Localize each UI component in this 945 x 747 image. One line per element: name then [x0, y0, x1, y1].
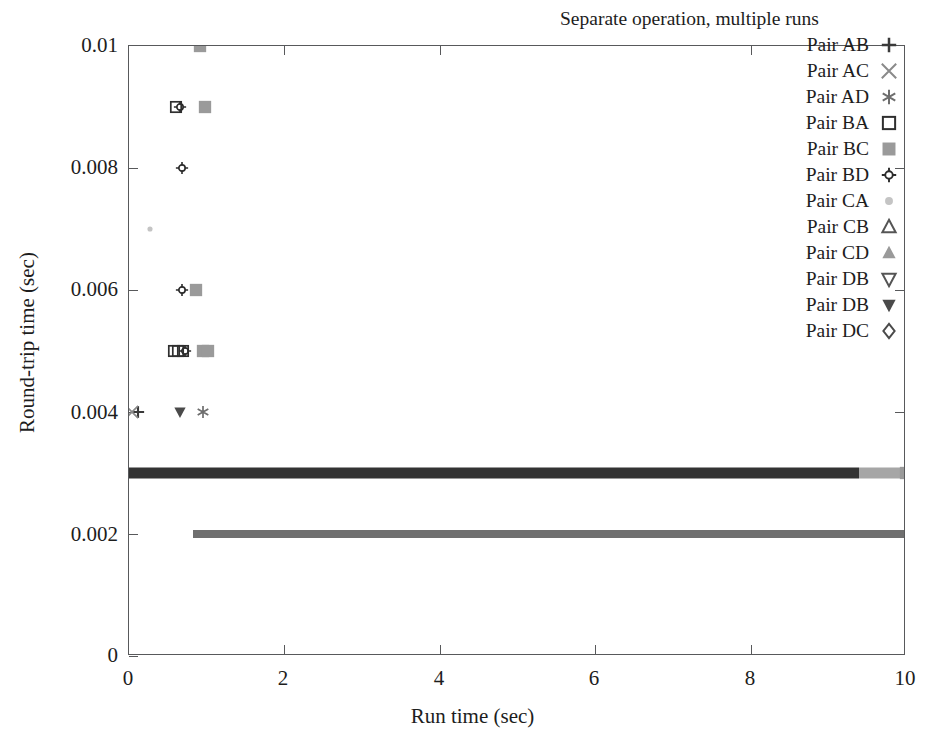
open-diamond-icon	[878, 320, 900, 342]
data-point	[172, 99, 189, 116]
y-tick-label-0008: 0.008	[18, 157, 118, 178]
data-point	[191, 46, 210, 56]
legend-item-label: Pair AD	[806, 86, 869, 108]
y-tick-0002	[129, 534, 138, 535]
legend-item-label: Pair BC	[807, 138, 869, 160]
legend-item[interactable]: Pair CD	[560, 240, 900, 266]
open-triangle-down-icon	[878, 268, 900, 290]
y-tick-label-0006: 0.006	[18, 279, 118, 300]
asterisk-icon	[878, 86, 900, 108]
x-tick-label-4: 4	[399, 668, 479, 689]
data-point	[196, 98, 215, 117]
legend-item-label: Pair DC	[806, 320, 869, 342]
y-tick-0	[129, 656, 138, 657]
x-tick-4	[440, 645, 441, 654]
legend-item[interactable]: Pair BD	[560, 162, 900, 188]
legend-item[interactable]: Pair DC	[560, 318, 900, 344]
y-tick-label-0: 0	[18, 645, 118, 666]
legend-item-label: Pair CB	[807, 216, 869, 238]
legend-item[interactable]: Pair AD	[560, 84, 900, 110]
legend-item-label: Pair BD	[806, 164, 869, 186]
y-tick-0006	[129, 290, 138, 291]
x-axis-title: Run time (sec)	[0, 704, 945, 729]
y-axis-title: Round-trip time (sec)	[15, 113, 40, 573]
legend-item[interactable]: Pair AC	[560, 58, 900, 84]
small-dot-light-icon	[878, 190, 900, 212]
data-band	[859, 468, 904, 479]
legend-item[interactable]: Pair BA	[560, 110, 900, 136]
y-tick-label-0002: 0.002	[18, 524, 118, 545]
legend-item-label: Pair CD	[806, 242, 869, 264]
x-tick-8	[751, 645, 752, 654]
data-point	[193, 342, 212, 361]
data-point	[173, 282, 190, 299]
data-point	[199, 342, 218, 361]
legend-item[interactable]: Pair CA	[560, 188, 900, 214]
data-band	[193, 530, 904, 538]
data-point	[176, 343, 193, 360]
data-point	[167, 99, 184, 116]
x-tick-label-8: 8	[710, 668, 790, 689]
data-point	[175, 343, 192, 360]
data-point	[166, 343, 183, 360]
legend-item-label: Pair AC	[807, 60, 869, 82]
x-tick-top-4	[440, 46, 441, 55]
cross-icon	[878, 60, 900, 82]
open-square-icon	[878, 112, 900, 134]
data-point	[186, 281, 205, 300]
legend-item-label: Pair AB	[807, 34, 869, 56]
data-point	[143, 223, 156, 236]
data-point	[173, 160, 190, 177]
filled-square-gray-icon	[878, 138, 900, 160]
legend-item[interactable]: Pair DB	[560, 292, 900, 318]
legend-entries: Pair ABPair ACPair ADPair BAPair BCPair …	[560, 32, 900, 344]
legend-item-label: Pair DB	[806, 294, 869, 316]
data-point	[171, 404, 188, 421]
x-tick-label-10: 10	[865, 668, 945, 689]
scatter-chart-figure: Round-trip time (sec) Run time (sec) 0 0…	[0, 0, 945, 747]
data-point	[897, 464, 905, 483]
x-tick-top-2	[284, 46, 285, 55]
open-triangle-up-icon	[878, 216, 900, 238]
y-tick-right-0002	[895, 534, 904, 535]
legend: Separate operation, multiple runs Pair A…	[560, 8, 900, 344]
data-point	[194, 404, 211, 421]
starburst-icon	[878, 164, 900, 186]
legend-item[interactable]: Pair CB	[560, 214, 900, 240]
y-tick-label-001: 0.01	[18, 35, 118, 56]
y-tick-right-0004	[895, 412, 904, 413]
x-tick-2	[284, 645, 285, 654]
x-tick-label-0: 0	[88, 668, 168, 689]
legend-item[interactable]: Pair DB	[560, 266, 900, 292]
y-tick-0008	[129, 168, 138, 169]
y-tick-0004	[129, 412, 138, 413]
data-point	[169, 343, 186, 360]
legend-item[interactable]: Pair BC	[560, 136, 900, 162]
y-tick-label-0004: 0.004	[18, 402, 118, 423]
legend-item[interactable]: Pair AB	[560, 32, 900, 58]
legend-item-label: Pair CA	[806, 190, 869, 212]
filled-triangle-down-icon	[878, 294, 900, 316]
legend-item-label: Pair BA	[806, 112, 869, 134]
data-band	[129, 468, 859, 479]
x-tick-label-2: 2	[243, 668, 323, 689]
x-tick-6	[595, 645, 596, 654]
legend-title: Separate operation, multiple runs	[560, 8, 900, 30]
plus-icon	[878, 34, 900, 56]
filled-triangle-up-gray-icon	[878, 242, 900, 264]
x-tick-label-6: 6	[554, 668, 634, 689]
legend-item-label: Pair DB	[806, 268, 869, 290]
